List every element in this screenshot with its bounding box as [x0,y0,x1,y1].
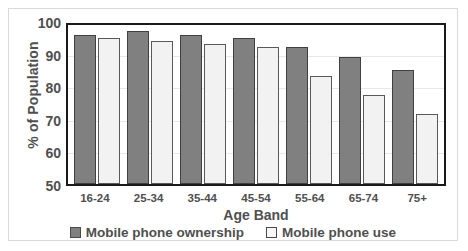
bar [98,38,120,184]
x-axis-tick-label: 45-54 [229,189,283,207]
bar-group [70,25,123,184]
bar-groups [68,25,444,184]
bar [363,95,385,184]
bar [392,70,414,184]
x-axis-tick-label: 75+ [390,189,444,207]
bar [286,47,308,184]
bar [339,57,361,184]
legend-item-label: Mobile phone use [282,225,396,240]
plot-area [66,23,446,186]
bar [180,35,202,184]
x-axis-tick-label: 35-44 [175,189,229,207]
y-axis-tick-label: 90 [31,49,61,63]
bar [127,31,149,184]
x-axis-tick-label: 16-24 [68,189,122,207]
chart-legend: Mobile phone ownershipMobile phone use [9,225,457,240]
y-axis-tick-labels: 5060708090100 [31,23,61,186]
bar-group [283,25,336,184]
bar [151,41,173,184]
x-axis-title: Age Band [66,207,446,223]
legend-item: Mobile phone use [266,225,396,240]
bar [74,35,96,184]
bar-group [229,25,282,184]
bar [310,76,332,184]
bar-chart: % of Population 5060708090100 16-2425-34… [8,8,458,241]
bar [233,38,255,184]
bar [416,114,438,184]
bar-group [123,25,176,184]
bar [204,44,226,184]
legend-item: Mobile phone ownership [70,225,244,240]
legend-item-label: Mobile phone ownership [86,225,244,240]
outlined-white-square-icon [266,227,277,238]
bar-group [336,25,389,184]
x-axis-tick-label: 25-34 [122,189,176,207]
y-axis-tick-label: 70 [31,114,61,128]
bar-group [389,25,442,184]
x-axis-tick-label: 55-64 [283,189,337,207]
bar [257,47,279,184]
y-axis-tick-label: 50 [31,179,61,193]
x-axis-tick-label: 65-74 [337,189,391,207]
y-axis-tick-label: 100 [31,16,61,30]
y-axis-tick-label: 60 [31,146,61,160]
y-axis-tick-label: 80 [31,81,61,95]
filled-gray-square-icon [70,227,81,238]
bar-group [176,25,229,184]
x-axis-tick-labels: 16-2425-3435-4445-5455-6465-7475+ [66,189,446,207]
